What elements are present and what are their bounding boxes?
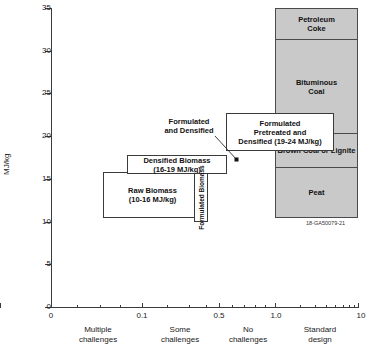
x-category-no-challenges: No challenges bbox=[229, 325, 267, 345]
figure-id-label: 18-GA50079-21 bbox=[306, 220, 345, 226]
annotation-line2: and Densified bbox=[152, 126, 226, 135]
y-axis-title: MJ/kg bbox=[2, 154, 11, 175]
fossil-label-line1: Petroleum bbox=[298, 15, 335, 24]
biomass-label-line1: Formulated bbox=[198, 194, 205, 229]
x-category-line2: challenges bbox=[161, 335, 199, 345]
y-tick-5: 5 bbox=[0, 264, 51, 265]
fossil-label-line2: Coal bbox=[296, 87, 337, 96]
biomass-label-line2: Biomass bbox=[198, 165, 205, 192]
annotation-formulated-and-densified: Formulated and Densified bbox=[152, 117, 226, 135]
x-category-line1: Some bbox=[161, 325, 199, 335]
biomass-label-line3: Densified (19-24 MJ/kg) bbox=[238, 137, 321, 146]
chart-figure: Petroleum Coke Bituminous Coal Brown Coa… bbox=[0, 0, 371, 353]
fossil-cell-petroleum-coke: Petroleum Coke bbox=[276, 9, 357, 39]
x-tick-10 bbox=[358, 303, 359, 308]
y-tick-label: 30 bbox=[29, 47, 51, 55]
x-minor-tick bbox=[255, 305, 256, 308]
x-tick-label-10: 10 bbox=[357, 311, 366, 320]
biomass-label-line2: Pretreated and bbox=[238, 128, 321, 137]
x-minor-tick bbox=[232, 305, 233, 308]
x-category-line2: challenges bbox=[79, 335, 117, 345]
annotation-line1: Formulated bbox=[152, 117, 226, 126]
x-category-some-challenges: Some challenges bbox=[161, 325, 199, 345]
y-tick-25: 25 bbox=[0, 93, 51, 94]
x-tick-0 bbox=[51, 303, 52, 308]
x-tick-label-0-5: 0.5 bbox=[213, 311, 224, 320]
x-category-line2: design bbox=[304, 335, 336, 345]
biomass-label-line1: Densified Biomass bbox=[143, 156, 210, 165]
y-tick-label: 0 bbox=[29, 303, 51, 311]
biomass-box-densified-biomass: Densified Biomass (16-19 MJ/kg) bbox=[127, 155, 227, 174]
x-minor-tick bbox=[343, 305, 344, 308]
x-minor-tick bbox=[335, 305, 336, 308]
biomass-box-raw-biomass: Raw Biomass (10-16 MJ/kg) bbox=[103, 172, 202, 218]
y-tick-label: 5 bbox=[29, 260, 51, 268]
x-minor-tick bbox=[167, 305, 168, 308]
x-tick-label-1-0: 1.0 bbox=[270, 311, 281, 320]
y-tick-label: 25 bbox=[29, 89, 51, 97]
x-minor-tick bbox=[100, 305, 101, 308]
fossil-label-line2: Coke bbox=[298, 24, 335, 33]
x-tick-label-0: 0 bbox=[49, 311, 53, 320]
fossil-cell-peat: Peat bbox=[276, 167, 357, 217]
x-minor-tick bbox=[326, 305, 327, 308]
x-minor-tick bbox=[244, 305, 245, 308]
x-category-line1: Multiple bbox=[79, 325, 117, 335]
x-category-line1: No bbox=[229, 325, 267, 335]
fossil-label-line1: Bituminous bbox=[296, 78, 337, 87]
x-minor-tick bbox=[265, 305, 266, 308]
x-tick-1-0b bbox=[275, 303, 276, 308]
x-minor-tick bbox=[349, 305, 350, 308]
biomass-box-formulated-pretreated-densified: Formulated Pretreated and Densified (19-… bbox=[226, 113, 334, 151]
x-minor-tick bbox=[120, 305, 121, 308]
y-tick-35: 35 bbox=[0, 8, 51, 9]
y-tick-label: 35 bbox=[29, 4, 51, 12]
y-tick-10: 10 bbox=[0, 222, 51, 223]
fossil-label-line1: Peat bbox=[309, 188, 325, 197]
x-minor-tick bbox=[189, 305, 190, 308]
x-axis-line bbox=[51, 307, 359, 308]
x-category-line2: challenges bbox=[229, 335, 267, 345]
x-tick-0-5 bbox=[219, 303, 220, 308]
biomass-label-line1: Raw Biomass bbox=[128, 186, 177, 195]
x-minor-tick bbox=[77, 305, 78, 308]
y-tick-20: 20 bbox=[0, 136, 51, 137]
x-category-multiple-challenges: Multiple challenges bbox=[79, 325, 117, 345]
x-category-line1: Standard bbox=[304, 325, 336, 335]
x-tick-1-0 bbox=[0, 303, 1, 308]
y-tick-0: 0 bbox=[0, 307, 51, 308]
biomass-label-line1: Formulated bbox=[238, 119, 321, 128]
x-minor-tick bbox=[315, 305, 316, 308]
y-tick-label: 20 bbox=[29, 132, 51, 140]
y-tick-30: 30 bbox=[0, 51, 51, 52]
biomass-box-formulated-biomass: Formulated Biomass bbox=[194, 173, 208, 222]
x-minor-tick bbox=[354, 305, 355, 308]
y-tick-label: 10 bbox=[29, 218, 51, 226]
biomass-label-line2: (10-16 MJ/kg) bbox=[128, 195, 177, 204]
y-tick-15: 15 bbox=[0, 179, 51, 180]
x-minor-tick bbox=[206, 305, 207, 308]
x-tick-label-0-1: 0.1 bbox=[136, 311, 147, 320]
x-tick-0-1 bbox=[142, 303, 143, 308]
y-tick-label: 15 bbox=[29, 175, 51, 183]
y-axis-line bbox=[51, 8, 52, 308]
x-category-standard-design: Standard design bbox=[304, 325, 336, 345]
x-minor-tick bbox=[300, 305, 301, 308]
